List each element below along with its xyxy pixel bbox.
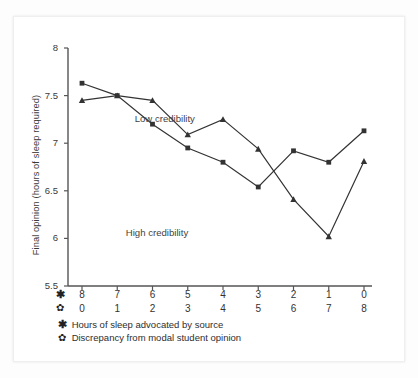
data-point-square <box>362 128 367 133</box>
x-tick-label-source: 3 <box>249 289 267 300</box>
y-tick-label: 8 <box>32 42 58 53</box>
y-tick-label: 7 <box>32 137 58 148</box>
legend-row-discrepancy: ✿ Discrepancy from modal student opinion <box>55 332 241 343</box>
data-point-square <box>291 148 296 153</box>
data-point-triangle <box>361 158 367 164</box>
chart-page: Final opinion (hours of sleep required) … <box>0 0 418 378</box>
legend-label-source: Hours of sleep advocated by source <box>72 319 224 330</box>
x-row-symbol-discrepancy: ✿ <box>53 302 67 313</box>
data-point-square <box>326 160 331 165</box>
x-tick-label-source: 8 <box>73 289 91 300</box>
chart-figure: Final opinion (hours of sleep required) … <box>0 0 418 378</box>
y-tick-label: 6.5 <box>32 185 58 196</box>
data-point-triangle <box>220 116 226 122</box>
series-layer <box>79 81 367 239</box>
x-tick-label-source: 4 <box>214 289 232 300</box>
x-tick-label-discrepancy: 6 <box>285 303 303 314</box>
data-point-square <box>80 81 85 86</box>
x-tick-label-source: 2 <box>285 289 303 300</box>
bold-asterisk-icon: ✱ <box>55 318 69 331</box>
x-tick-label-discrepancy: 4 <box>214 303 232 314</box>
x-row-symbol-source: ✱ <box>53 288 67 301</box>
x-tick-label-discrepancy: 2 <box>144 303 162 314</box>
y-tick-label: 6 <box>32 232 58 243</box>
x-tick-label-discrepancy: 7 <box>320 303 338 314</box>
legend-label-discrepancy: Discrepancy from modal student opinion <box>72 332 242 343</box>
x-tick-label-discrepancy: 8 <box>355 303 373 314</box>
y-tick-label: 7.5 <box>32 90 58 101</box>
x-tick-label-discrepancy: 5 <box>249 303 267 314</box>
x-tick-label-source: 7 <box>108 289 126 300</box>
annotation-low-credibility: Low credibility <box>135 113 195 124</box>
data-point-square <box>221 160 226 165</box>
x-tick-label-discrepancy: 3 <box>179 303 197 314</box>
x-tick-label-discrepancy: 1 <box>108 303 126 314</box>
x-tick-label-source: 0 <box>355 289 373 300</box>
legend-row-source: ✱ Hours of sleep advocated by source <box>55 318 223 331</box>
x-tick-label-source: 5 <box>179 289 197 300</box>
data-point-square <box>256 185 261 190</box>
x-tick-label-source: 6 <box>144 289 162 300</box>
series-line-low-credibility <box>82 83 364 187</box>
chart-axes <box>68 48 372 286</box>
x-tick-label-discrepancy: 0 <box>73 303 91 314</box>
data-point-square <box>185 146 190 151</box>
x-tick-label-source: 1 <box>320 289 338 300</box>
annotation-high-credibility: High credibility <box>126 227 188 238</box>
open-asterisk-icon: ✿ <box>55 332 69 343</box>
